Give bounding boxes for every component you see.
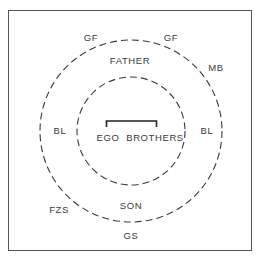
circles-graphic: [0, 0, 260, 260]
label-ego: EGO: [97, 133, 120, 143]
ego-brothers-bracket: [107, 121, 157, 127]
label-brothers: BROTHERS: [126, 133, 184, 143]
label-father: FATHER: [110, 56, 150, 66]
kinship-diagram: GF GF FATHER MB BL BL EGO BROTHERS FZS S…: [0, 0, 260, 260]
label-mb: MB: [208, 63, 223, 73]
inner-circle: [77, 77, 185, 185]
label-gf-right: GF: [164, 33, 178, 43]
label-bl-left: BL: [54, 126, 67, 136]
outer-circle: [40, 40, 222, 222]
label-gf-left: GF: [84, 33, 98, 43]
label-fzs: FZS: [49, 205, 69, 215]
label-son: SON: [120, 201, 142, 211]
label-gs: GS: [124, 231, 139, 241]
label-bl-right: BL: [201, 126, 214, 136]
